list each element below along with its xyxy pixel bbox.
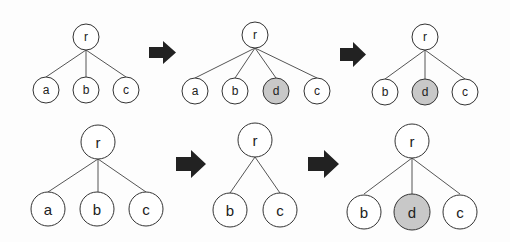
node-a-label: a [192,84,199,98]
node-b-label: b [226,202,234,219]
tree-bottom-right: r b d c [347,124,477,230]
node-a-label: a [44,201,53,218]
node-b-label: b [93,201,101,218]
node-c-label: c [314,84,320,98]
node-c-label: c [462,85,468,99]
node-a-label: a [43,83,50,97]
node-r-label: r [253,28,257,42]
tree-diagram: r a b c r a b d c r b d [0,0,510,242]
node-b-label: b [83,83,90,97]
tree-top-left: r a b c [33,24,139,103]
node-r-label: r [84,30,88,44]
right-arrow-icon [149,41,176,64]
tree-bottom-middle: r b c [213,123,297,227]
node-r-label: r [253,132,258,149]
right-arrow-icon [308,150,339,178]
node-d-label: d [408,204,416,221]
right-arrow-icon [340,42,366,67]
node-r-label: r [410,133,415,150]
tree-bottom-left: r a b c [31,125,163,226]
node-c-label: c [276,202,284,219]
node-b-label: b [360,204,368,221]
node-c-label: c [456,204,464,221]
node-r-label: r [423,30,427,44]
node-c-label: c [123,83,129,97]
node-b-label: b [232,84,239,98]
right-arrow-icon [176,150,206,178]
tree-top-middle: r a b d c [182,22,330,104]
node-r-label: r [96,134,101,151]
node-d-label: d [422,85,429,99]
node-d-label: d [273,84,280,98]
tree-top-right: r b d c [372,24,478,105]
node-b-label: b [382,85,389,99]
node-c-label: c [142,201,150,218]
